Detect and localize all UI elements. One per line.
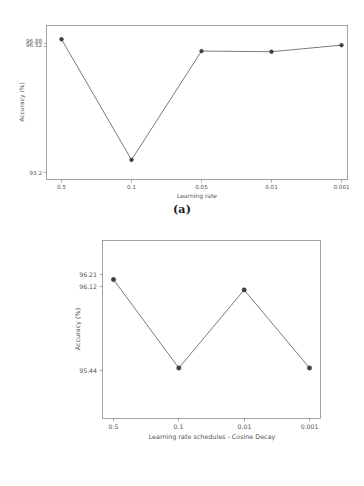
chart-a-xtick-label-4: 0.001 bbox=[333, 184, 349, 190]
data-point bbox=[242, 288, 246, 292]
chart-b-xtick-label-2: 0.01 bbox=[238, 423, 252, 430]
chart-a-ytick-label-1: 96.52 bbox=[26, 42, 42, 48]
chart-a-x-ticks bbox=[62, 180, 342, 183]
data-point bbox=[200, 49, 204, 53]
chart-a-xtick-label-0: 0.5 bbox=[57, 184, 66, 190]
chart-b-ytick-label-0: 96.21 bbox=[79, 271, 97, 278]
chart-b-ytick-label-1: 96.12 bbox=[79, 283, 97, 290]
chart-b-y-ticks bbox=[100, 275, 103, 371]
chart-b-y-axis-title: Accuracy (%) bbox=[74, 308, 82, 350]
chart-b-series-line bbox=[114, 280, 310, 368]
chart-a-x-axis-title: Learning rate bbox=[177, 192, 217, 200]
chart-a-xtick-label-2: 0.05 bbox=[195, 184, 208, 190]
data-point bbox=[340, 43, 344, 47]
chart-a-ytick-label-2: 93.2 bbox=[30, 170, 42, 176]
chart-a-y-axis-title: Accuracy (%) bbox=[18, 82, 26, 122]
figure-container: 96.88 96.52 93.2 Accuracy (%) 0.5 0.1 0.… bbox=[0, 0, 364, 486]
chart-b-ytick-label-2: 95.44 bbox=[79, 367, 97, 374]
chart-a-markers bbox=[60, 37, 344, 161]
chart-a-xtick-label-1: 0.1 bbox=[127, 184, 136, 190]
chart-b-x-ticks bbox=[114, 419, 310, 422]
chart-a-y-ticks bbox=[44, 44, 47, 173]
chart-b-xtick-label-3: 0.001 bbox=[301, 423, 319, 430]
chart-panel-b: 96.21 96.12 95.44 Accuracy (%) 0.5 0.1 0… bbox=[0, 226, 364, 486]
data-point bbox=[270, 50, 274, 54]
chart-b-xtick-label-1: 0.1 bbox=[174, 423, 184, 430]
data-point bbox=[111, 277, 115, 281]
panel-a-caption: (a) bbox=[0, 203, 364, 216]
chart-b-markers bbox=[111, 277, 311, 370]
data-point bbox=[177, 366, 181, 370]
chart-panel-a: 96.88 96.52 93.2 Accuracy (%) 0.5 0.1 0.… bbox=[0, 0, 364, 222]
chart-b-svg: 96.21 96.12 95.44 Accuracy (%) 0.5 0.1 0… bbox=[0, 226, 364, 458]
data-point bbox=[60, 37, 64, 41]
chart-a-series-line bbox=[62, 39, 342, 160]
chart-b-xtick-label-0: 0.5 bbox=[109, 423, 119, 430]
chart-a-xtick-label-3: 0.01 bbox=[265, 184, 278, 190]
chart-a-svg: 96.88 96.52 93.2 Accuracy (%) 0.5 0.1 0.… bbox=[0, 0, 364, 200]
chart-b-x-axis-title: Learning rate schedules - Cosine Decay bbox=[149, 433, 276, 441]
data-point bbox=[307, 366, 311, 370]
data-point bbox=[130, 158, 134, 162]
